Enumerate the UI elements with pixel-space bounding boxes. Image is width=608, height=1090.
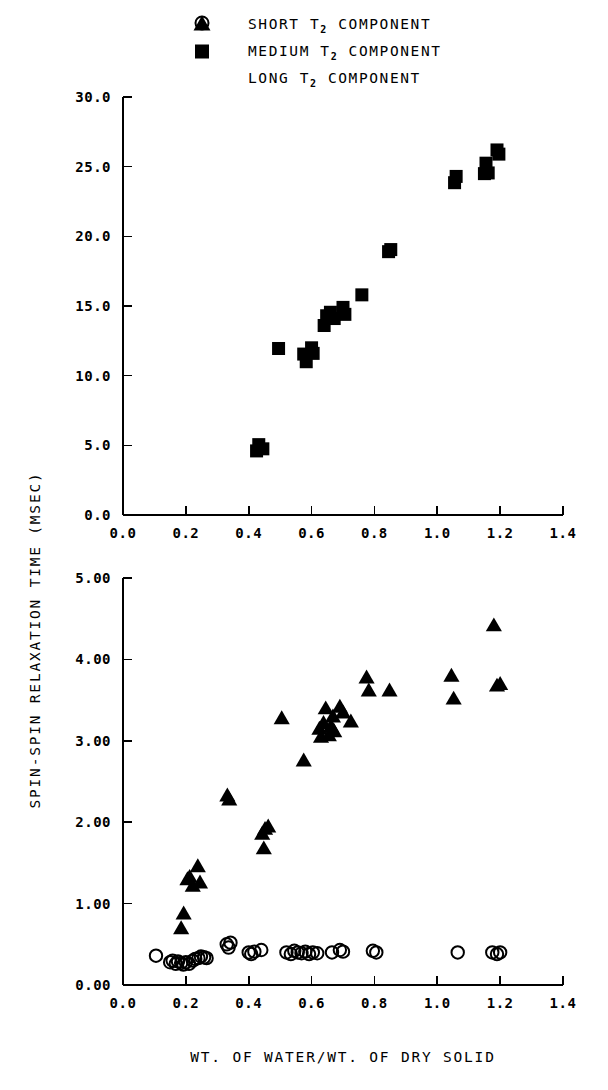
- y-tick-label: 2.00: [75, 814, 111, 830]
- x-tick-label: 0.2: [172, 525, 199, 541]
- triangle-filled-marker: [256, 840, 272, 854]
- y-axis-title: SPIN-SPIN RELAXATION TIME (MSEC): [27, 472, 43, 809]
- square-filled-marker: [492, 148, 505, 161]
- bottom-panel-data-points: [150, 617, 508, 970]
- legend-text-sub-long: 2: [310, 78, 318, 89]
- triangle-filled-marker: [190, 858, 206, 872]
- legend-text-suffix-short: COMPONENT: [328, 16, 431, 32]
- y-tick-label: 30.0: [75, 89, 111, 105]
- legend-text-suffix-long: COMPONENT: [318, 70, 421, 86]
- x-tick-label: 0.4: [235, 995, 262, 1011]
- top-panel-y-tick-labels: 0.05.010.015.020.025.030.0: [75, 89, 111, 523]
- circle-open-marker: [150, 949, 162, 961]
- square-filled-marker: [195, 45, 209, 59]
- bottom-panel: 0.001.002.003.004.005.00 0.00.20.40.60.8…: [75, 570, 576, 1011]
- top-panel-y-ticks: [123, 97, 132, 515]
- square-filled-marker: [338, 308, 351, 321]
- bottom-panel-x-tick-labels: 0.00.20.40.60.81.01.21.4: [110, 995, 577, 1011]
- y-tick-label: 1.00: [75, 896, 111, 912]
- triangle-filled-marker: [274, 710, 290, 724]
- triangle-filled-marker: [486, 617, 502, 631]
- square-filled-marker: [272, 342, 285, 355]
- y-tick-label: 3.00: [75, 733, 111, 749]
- y-tick-label: 25.0: [75, 159, 111, 175]
- bottom-panel-y-tick-labels: 0.001.002.003.004.005.00: [75, 570, 111, 993]
- x-tick-label: 0.6: [298, 995, 325, 1011]
- triangle-filled-marker: [443, 668, 459, 682]
- y-tick-label: 0.0: [84, 507, 111, 523]
- x-tick-label: 1.0: [424, 995, 451, 1011]
- x-tick-label: 0.4: [235, 525, 262, 541]
- triangle-filled-marker: [296, 753, 312, 767]
- triangle-filled-marker: [358, 669, 374, 683]
- square-filled-marker: [307, 347, 320, 360]
- x-axis-title: WT. OF WATER/WT. OF DRY SOLID: [190, 1049, 495, 1065]
- top-panel: 0.05.010.015.020.025.030.0 0.00.20.40.60…: [75, 89, 576, 541]
- x-tick-label: 1.2: [487, 525, 514, 541]
- y-tick-label: 5.0: [84, 437, 111, 453]
- y-tick-label: 15.0: [75, 298, 111, 314]
- bottom-panel-axes: [123, 578, 563, 985]
- square-filled-marker: [450, 170, 463, 183]
- bottom-panel-x-ticks: [123, 976, 563, 985]
- legend-label-long: LONG T2 COMPONENT: [248, 70, 421, 89]
- square-filled-marker: [384, 243, 397, 256]
- y-tick-label: 20.0: [75, 228, 111, 244]
- circle-open-marker: [452, 946, 464, 958]
- legend-text-prefix-medium: MEDIUM T: [248, 43, 331, 59]
- legend: SHORT T2 COMPONENT MEDIUM T2 COMPONENT L…: [194, 16, 442, 90]
- x-tick-label: 0.0: [110, 995, 137, 1011]
- top-panel-x-tick-labels: 0.00.20.40.60.81.01.21.4: [110, 525, 577, 541]
- legend-text-prefix-long: LONG T: [248, 70, 310, 86]
- figure-container: SHORT T2 COMPONENT MEDIUM T2 COMPONENT L…: [0, 0, 608, 1090]
- x-tick-label: 0.8: [361, 525, 388, 541]
- x-tick-label: 0.6: [298, 525, 325, 541]
- x-tick-label: 0.2: [172, 995, 199, 1011]
- triangle-filled-marker: [176, 906, 192, 920]
- square-filled-marker: [355, 288, 368, 301]
- y-tick-label: 5.00: [75, 570, 111, 586]
- y-tick-label: 0.00: [75, 977, 111, 993]
- triangle-filled-marker: [173, 920, 189, 934]
- triangle-filled-marker: [381, 683, 397, 697]
- triangle-filled-marker: [361, 683, 377, 697]
- x-tick-label: 1.4: [550, 525, 577, 541]
- x-tick-label: 1.4: [550, 995, 577, 1011]
- top-panel-data-points: [250, 143, 505, 457]
- triangle-filled-marker: [446, 691, 462, 705]
- x-tick-label: 1.2: [487, 995, 514, 1011]
- legend-label-medium: MEDIUM T2 COMPONENT: [248, 43, 442, 62]
- y-tick-label: 10.0: [75, 368, 111, 384]
- scatter-plot-figure: SHORT T2 COMPONENT MEDIUM T2 COMPONENT L…: [0, 0, 608, 1090]
- x-tick-label: 0.8: [361, 995, 388, 1011]
- legend-text-sub-short: 2: [320, 24, 328, 35]
- square-filled-marker: [256, 442, 269, 455]
- square-filled-marker: [482, 166, 495, 179]
- y-tick-label: 4.00: [75, 651, 111, 667]
- x-tick-label: 0.0: [110, 525, 137, 541]
- legend-text-sub-medium: 2: [331, 51, 339, 62]
- legend-text-suffix-medium: COMPONENT: [338, 43, 441, 59]
- x-tick-label: 1.0: [424, 525, 451, 541]
- top-panel-x-ticks: [123, 506, 563, 515]
- legend-text-prefix-short: SHORT T: [248, 16, 320, 32]
- legend-entry-short: SHORT T2 COMPONENT: [196, 16, 432, 35]
- bottom-panel-y-ticks: [123, 578, 132, 985]
- legend-label-short: SHORT T2 COMPONENT: [248, 16, 431, 35]
